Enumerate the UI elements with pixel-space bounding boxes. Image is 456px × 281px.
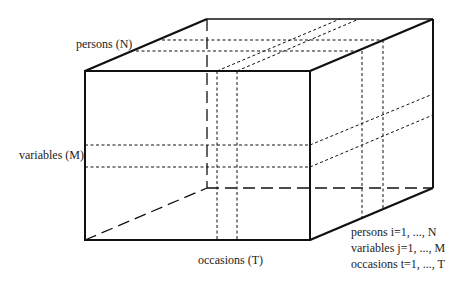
variables-axis-label: variables (M)	[19, 148, 84, 162]
slice-lines	[85, 19, 433, 240]
index-legend: persons i=1, ..., N variables j=1, ..., …	[351, 224, 445, 272]
legend-variables: variables j=1, ..., M	[351, 240, 445, 256]
legend-occasions: occasions t=1, ..., T	[351, 256, 445, 272]
hidden-edges	[85, 19, 433, 240]
visible-edges	[85, 19, 433, 240]
legend-persons: persons i=1, ..., N	[351, 224, 445, 240]
occasions-axis-label: occasions (T)	[198, 253, 263, 267]
persons-axis-label: persons (N)	[76, 37, 132, 51]
